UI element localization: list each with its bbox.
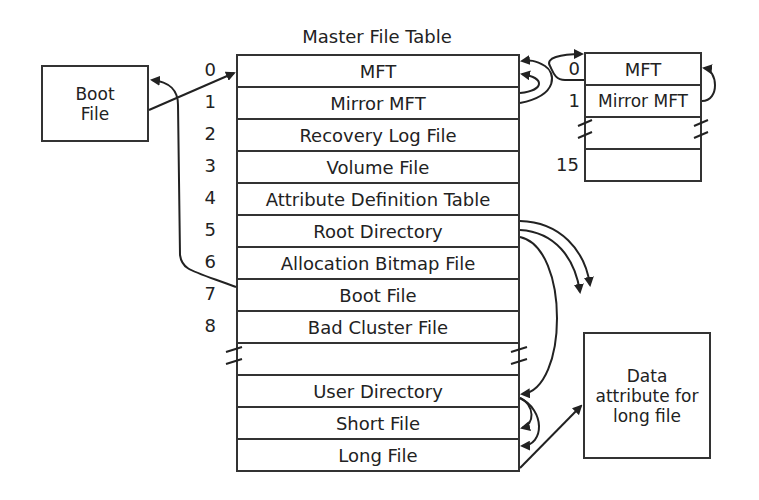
- connector-arrows: [0, 0, 759, 500]
